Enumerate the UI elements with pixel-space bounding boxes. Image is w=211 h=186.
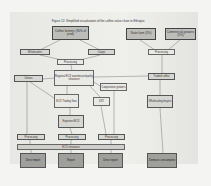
regional-ecx-node: Regional ECX warehouse/quality clearance (54, 70, 94, 86)
processing-left-node: Processing (57, 59, 84, 65)
cooperative-growers-node: Cooperative growers (100, 83, 127, 91)
ecx-trading-floor-node: ECX Trading floor (54, 94, 79, 108)
unions-node: Unions (14, 75, 43, 82)
domestic-consumption-node: Domestic consumption (147, 153, 177, 168)
processing-node-1: Processing (17, 134, 45, 140)
traded-coffee-node: Traded coffee (148, 73, 175, 80)
direct-export-node: Direct export (98, 153, 123, 168)
state-farm-node: State farm (5%) (126, 28, 156, 40)
wholesalers-node: Wholesalers (20, 49, 50, 55)
export-node: Export (58, 153, 84, 168)
dst-node: DST (93, 97, 110, 106)
commercial-growers-node: Commercial growers (5%) (165, 28, 196, 40)
processing-right-node: Processing (148, 49, 175, 55)
coffee-farmers-node: Coffee farmers (90% of prod) (52, 26, 89, 40)
ecx-clearance-bar: ECX clearance (17, 144, 125, 150)
direct-import-node: Direct import (20, 153, 46, 168)
coops-node: Coops (88, 49, 115, 55)
exporters-node: Exporters/ECX (58, 115, 84, 128)
processing-node-3: Processing (98, 134, 125, 140)
wholesaling-buyers-node: Wholesaling buyers (147, 95, 173, 108)
processing-node-2: Processing (58, 134, 86, 140)
